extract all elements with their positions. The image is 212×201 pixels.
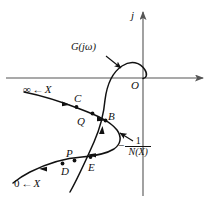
imaginary-axis-label: j	[131, 10, 134, 21]
point-marker-P	[73, 159, 77, 163]
point-label-Q: Q	[77, 116, 85, 127]
neg-inv-n-label: − 1 N(X)	[118, 136, 151, 157]
neg-inv-n-fraction: 1 N(X)	[125, 136, 151, 157]
point-label-D: D	[61, 166, 69, 177]
origin-label: O	[131, 80, 139, 91]
neg-inv-n-minus-sign: −	[118, 140, 124, 151]
branch-variable-lower: X	[34, 178, 41, 189]
nyquist-describing-function-figure: j O G(jω) − 1 N(X) ∞ ← X 0 ← X C Q B P D…	[0, 0, 212, 201]
point-label-E: E	[88, 162, 95, 173]
point-label-C: C	[74, 93, 81, 104]
g-jw-label: G(jω)	[71, 42, 96, 53]
point-marker-B	[104, 119, 108, 123]
branch-limit-zero: 0	[14, 178, 20, 189]
branch-label-infinity: ∞ ← X	[23, 84, 52, 95]
point-label-B: B	[108, 111, 115, 122]
branch-arrow-left-icon-lower: ←	[21, 179, 33, 189]
point-marker-Q	[91, 112, 95, 116]
point-marker-E	[89, 155, 93, 159]
branch-label-zero: 0 ← X	[14, 178, 40, 189]
figure-canvas	[0, 0, 212, 201]
neg-inv-n-denominator: N(X)	[127, 147, 148, 157]
point-marker-C	[75, 105, 79, 109]
neg-inv-n-numerator: 1	[134, 136, 143, 146]
branch-limit-infinity: ∞	[23, 84, 31, 95]
point-label-P: P	[66, 148, 73, 159]
branch-arrow-left-icon: ←	[32, 85, 44, 95]
branch-variable-upper: X	[45, 84, 52, 95]
g-jw-leader-line	[106, 56, 121, 68]
